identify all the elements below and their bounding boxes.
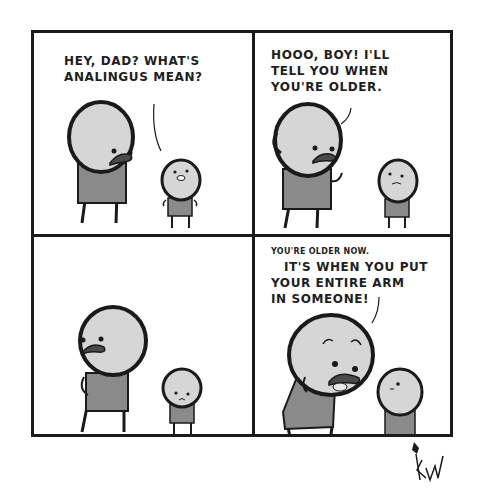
speech-tail-icon (154, 104, 161, 151)
artist-signature (400, 440, 445, 490)
son-figure (162, 160, 200, 228)
dad-figure (69, 102, 133, 223)
panel-4-art (255, 237, 453, 437)
son-figure (163, 369, 201, 435)
dad-figure (283, 315, 373, 437)
dad-figure (274, 104, 342, 228)
panel-2-art (255, 33, 453, 237)
panel-1-art (34, 33, 255, 237)
panel-3 (31, 234, 255, 437)
son-figure (379, 160, 417, 228)
pen-nib-icon (412, 442, 419, 454)
comic-strip: HEY, DAD? WHAT'SANALINGUS MEAN? (31, 30, 453, 437)
dad-figure (80, 307, 146, 432)
panel-3-art (34, 237, 255, 437)
speech-tail-icon (341, 108, 351, 124)
panel-1: HEY, DAD? WHAT'SANALINGUS MEAN? (31, 30, 255, 237)
panel-2: HOOO, BOY! I'LLTELL YOU WHENYOU'RE OLDER… (252, 30, 453, 237)
speech-tail-icon (372, 297, 379, 323)
son-figure (378, 369, 422, 435)
panel-4: YOU'RE OLDER NOW. IT'S WHEN YOU PUTYOUR … (252, 234, 453, 437)
